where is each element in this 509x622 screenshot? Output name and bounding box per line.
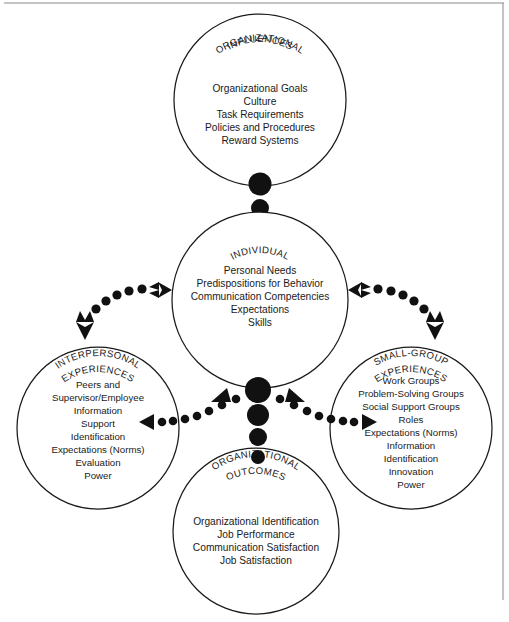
- small-group-experiences-item-3: Roles: [399, 414, 424, 425]
- hub-dot-3: [249, 428, 267, 446]
- organizational-influences-item-2: Task Requirements: [216, 109, 303, 120]
- node-organizational-influences[interactable]: ORGANIZATIONAL INFLUENCES Organizational…: [174, 14, 346, 186]
- interpersonal-experiences-item-2: Information: [74, 405, 122, 416]
- path-dot: [101, 296, 110, 305]
- interpersonal-experiences-item-7: Power: [84, 470, 112, 481]
- path-dot: [137, 284, 146, 293]
- hub-dot-2: [247, 404, 269, 426]
- path-dot: [158, 418, 167, 427]
- connector-individual-to-interpersonal: [76, 282, 172, 340]
- interpersonal-experiences-item-6: Evaluation: [75, 457, 120, 468]
- node-individual[interactable]: INDIVIDUAL Personal Needs Predisposition…: [172, 212, 348, 388]
- arrowhead-to-individual-left: [149, 282, 172, 298]
- individual-item-0: Personal Needs: [224, 265, 297, 276]
- individual-item-3: Expectations: [231, 304, 289, 315]
- small-group-experiences-item-5: Information: [387, 440, 435, 451]
- interpersonal-experiences-item-3: Support: [81, 418, 115, 429]
- small-group-experiences-item-7: Innovation: [389, 466, 434, 477]
- interpersonal-experiences-item-5: Expectations (Norms): [51, 444, 144, 455]
- organizational-outcomes-item-0: Organizational Identification: [193, 516, 319, 527]
- path-dot: [315, 412, 324, 421]
- path-dot: [193, 412, 202, 421]
- path-dot: [386, 286, 395, 295]
- path-dot: [398, 290, 407, 299]
- individual-item-2: Communication Competencies: [191, 291, 330, 302]
- arrowhead-hub-left: [211, 388, 231, 402]
- path-dot: [218, 401, 227, 410]
- small-group-experiences-item-8: Power: [397, 479, 425, 490]
- organizational-communication-model: ORGANIZATIONAL INFLUENCES Organizational…: [0, 0, 509, 622]
- path-dot: [91, 304, 100, 313]
- individual-item-4: Skills: [248, 317, 272, 328]
- small-group-experiences-item-6: Identification: [384, 453, 438, 464]
- organizational-outcomes-item-3: Job Satisfaction: [220, 555, 292, 566]
- path-dot: [112, 290, 121, 299]
- individual-item-1: Predispositions for Behavior: [197, 278, 324, 289]
- path-dot: [232, 395, 241, 404]
- organizational-influences-item-3: Policies and Procedures: [205, 122, 315, 133]
- path-dot: [181, 415, 190, 424]
- arrowhead-hub-right: [285, 388, 305, 402]
- arrowhead-to-small-group: [426, 311, 444, 340]
- node-organizational-outcomes[interactable]: ORGANIZATIONAL OUTCOMES Organizational I…: [173, 448, 339, 614]
- small-group-experiences-item-0: Work Groups: [383, 375, 440, 386]
- path-dot: [169, 417, 178, 426]
- organizational-influences-item-0: Organizational Goals: [212, 83, 307, 94]
- node-interpersonal-experiences[interactable]: INTERPERSONAL EXPERIENCES Peers and Supe…: [17, 347, 179, 509]
- hub-dot-1: [245, 377, 271, 403]
- diagram-canvas: ORGANIZATIONAL INFLUENCES Organizational…: [0, 0, 509, 622]
- node-small-group-experiences[interactable]: SMALL-GROUP EXPERIENCES Work Groups Prob…: [330, 347, 492, 509]
- connector-individual-to-small-group: [348, 282, 444, 340]
- small-group-experiences-item-1: Problem-Solving Groups: [358, 388, 464, 399]
- interpersonal-experiences-item-1: Supervisor/Employee: [52, 392, 144, 403]
- interpersonal-experiences-item-4: Identification: [71, 431, 125, 442]
- path-dot: [303, 407, 312, 416]
- connector-influences-to-individual: [249, 173, 272, 218]
- path-dot: [276, 395, 285, 404]
- path-dot: [205, 407, 214, 416]
- path-dot: [419, 304, 428, 313]
- arrowhead-to-interpersonal: [76, 311, 94, 340]
- organizational-influences-item-1: Culture: [244, 96, 277, 107]
- path-dot: [290, 401, 299, 410]
- small-group-experiences-item-2: Social Support Groups: [362, 401, 460, 412]
- path-dot: [124, 286, 133, 295]
- small-group-experiences-item-4: Expectations (Norms): [364, 427, 457, 438]
- junction-dot-upper: [249, 173, 272, 196]
- central-hub: [211, 377, 305, 464]
- organizational-influences-item-4: Reward Systems: [222, 135, 299, 146]
- organizational-outcomes-item-2: Communication Satisfaction: [193, 542, 319, 553]
- path-dot: [350, 418, 359, 427]
- hub-dot-4: [251, 450, 265, 464]
- path-dot: [409, 296, 418, 305]
- interpersonal-experiences-item-0: Peers and: [76, 379, 120, 390]
- path-dot: [327, 415, 336, 424]
- organizational-outcomes-item-1: Job Performance: [217, 529, 295, 540]
- arrowhead-to-individual-right: [348, 282, 371, 298]
- path-dot: [373, 284, 382, 293]
- path-dot: [339, 417, 348, 426]
